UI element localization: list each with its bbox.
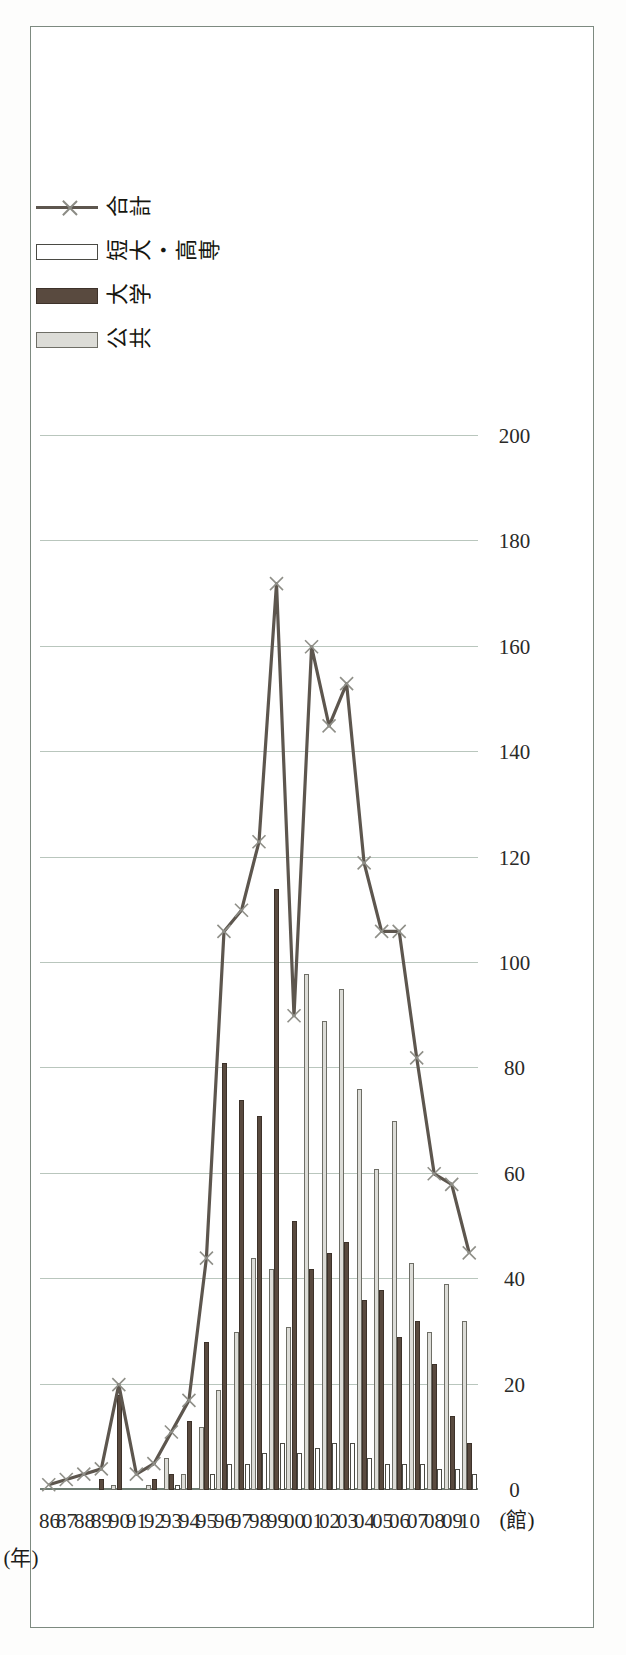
legend-item-2: 大学 xyxy=(36,269,266,311)
value-tick-60: 60 xyxy=(499,1161,531,1186)
legend-label-4: 合計 xyxy=(106,193,152,225)
legend-item-4: 合計 xyxy=(36,181,266,223)
total-line-series xyxy=(40,436,478,1490)
value-tick-0: 0 xyxy=(499,1478,531,1503)
total-line-path xyxy=(49,584,469,1485)
legend-label-3: 短大・高専 xyxy=(106,237,221,269)
legend-item-3: 短大・高専 xyxy=(36,225,266,267)
legend-label-1: 公共 xyxy=(106,325,152,357)
legend-label-2: 大学 xyxy=(106,281,152,313)
legend-swatch-kokyo xyxy=(36,332,98,348)
value-tick-140: 140 xyxy=(499,740,531,765)
legend-swatch-daigaku xyxy=(36,288,98,304)
value-tick-100: 100 xyxy=(499,951,531,976)
value-tick-20: 20 xyxy=(499,1372,531,1397)
legend: 公共大学短大・高専合計 xyxy=(36,55,286,355)
y-axis-unit-label: (館) xyxy=(487,1503,547,1533)
value-tick-80: 80 xyxy=(499,1056,531,1081)
legend-item-1: 公共 xyxy=(36,313,266,355)
x-axis-name-label: (年) xyxy=(0,1541,51,1571)
total-marker-93 xyxy=(165,1426,178,1439)
value-tick-200: 200 xyxy=(499,424,531,449)
value-tick-160: 160 xyxy=(499,634,531,659)
value-tick-120: 120 xyxy=(499,845,531,870)
rotated-chart-wrapper: 020406080100120140160180200 868788899091… xyxy=(0,0,626,1655)
plot-root: 020406080100120140160180200 868788899091… xyxy=(0,0,562,1600)
value-tick-40: 40 xyxy=(499,1267,531,1292)
legend-x-marker-icon xyxy=(60,198,80,218)
chart-canvas: 020406080100120140160180200 868788899091… xyxy=(0,0,562,1600)
year-tick-10: 10 xyxy=(455,1509,485,1534)
legend-swatch-tandai xyxy=(36,244,98,260)
value-tick-180: 180 xyxy=(499,529,531,554)
total-marker-92 xyxy=(147,1457,160,1470)
figure-page: 020406080100120140160180200 868788899091… xyxy=(0,0,626,1655)
